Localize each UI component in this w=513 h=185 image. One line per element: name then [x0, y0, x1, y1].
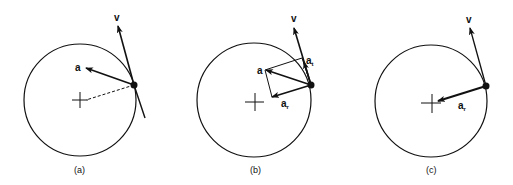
orbit-circle: [375, 45, 487, 157]
center-cross: [245, 93, 264, 111]
radial-acceleration-label: ar: [458, 100, 467, 112]
velocity-label: v: [291, 13, 297, 24]
particle-dot: [483, 83, 490, 90]
panel-a: v a (a): [24, 12, 145, 175]
velocity-arrow: [470, 28, 486, 86]
center-cross: [72, 92, 88, 108]
tangential-acceleration-label: at: [306, 55, 314, 67]
center-cross: [421, 94, 441, 113]
orbit-circle: [197, 43, 311, 157]
radius-dashed-line: [86, 85, 134, 100]
acceleration-label: a: [75, 62, 81, 73]
caption-b: (b): [250, 165, 261, 175]
caption-a: (a): [74, 165, 85, 175]
particle-dot: [131, 82, 138, 89]
acceleration-arrow: [86, 68, 134, 85]
panel-c: v ar (c): [375, 14, 490, 175]
acceleration-label: a: [257, 65, 263, 76]
velocity-arrow: [118, 26, 134, 85]
radial-acceleration-label: ar: [281, 98, 290, 110]
component-construction-lines: [265, 70, 272, 97]
velocity-label: v: [466, 14, 472, 25]
particle-dot: [308, 82, 315, 89]
velocity-label: v: [114, 12, 120, 23]
circular-motion-figure: v a (a) v a at ar (b): [0, 0, 513, 185]
radial-acceleration-arrow: [272, 85, 311, 97]
panel-b: v a at ar (b): [197, 13, 315, 175]
caption-c: (c): [426, 165, 437, 175]
radial-acceleration-arrow: [438, 86, 486, 101]
